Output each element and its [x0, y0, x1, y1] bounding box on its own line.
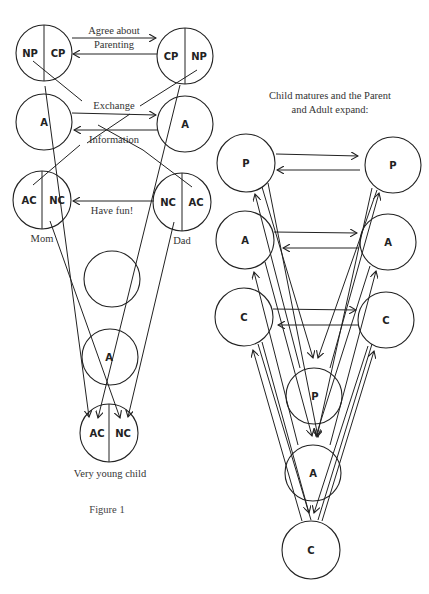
mom-np-label: NP: [22, 48, 38, 59]
dad-parent-ego-state: CP NP: [157, 28, 213, 84]
have-fun-label: Have fun!: [91, 205, 133, 216]
mom-adult-ego-state: A: [16, 94, 72, 150]
svg-text:P: P: [389, 160, 396, 171]
svg-text:A: A: [309, 468, 317, 479]
dad-child-ego-state: NC AC: [153, 173, 211, 231]
svg-text:C: C: [307, 545, 314, 556]
child-undeveloped-parent: [84, 251, 140, 307]
mom-to-child-line: [45, 86, 89, 417]
influence-line: [314, 346, 368, 513]
agree-about-label: Agree about: [88, 25, 140, 36]
dad-nc-label: NC: [160, 197, 176, 208]
dad-to-child-line: [128, 222, 174, 417]
exchange-label: Exchange: [93, 100, 135, 111]
information-label: Information: [89, 134, 140, 145]
parenting-label: Parenting: [94, 39, 135, 50]
child-nc-label: NC: [115, 428, 131, 439]
mom-parent-ego-state: NP CP: [16, 25, 72, 81]
left-parent-a: A: [216, 211, 274, 269]
mom-a-label: A: [40, 117, 48, 128]
mom-nc-label: NC: [49, 195, 65, 206]
cross-line: [140, 70, 197, 106]
right-panel-title-line1: Child matures and the Parent: [269, 90, 391, 101]
arrow-a-right: [274, 232, 357, 233]
influence-line: [316, 266, 370, 436]
left-parent-p: P: [217, 134, 275, 192]
figure-caption: Figure 1: [89, 504, 124, 515]
diagram-canvas: NP CP A AC NC Mom CP NP A NC AC Dad Agre…: [0, 0, 429, 594]
transactional-analysis-figure: NP CP A AC NC Mom CP NP A NC AC Dad Agre…: [0, 0, 429, 594]
mom-label: Mom: [31, 233, 54, 244]
dad-label: Dad: [173, 235, 191, 246]
child-adult-ego-state: A: [82, 329, 138, 385]
very-young-child-label: Very young child: [74, 468, 147, 479]
mom-child-ego-state: AC NC: [13, 171, 71, 229]
cross-line: [143, 150, 192, 187]
child-c: C: [282, 521, 340, 579]
cross-line: [33, 145, 80, 185]
influence-line: [262, 342, 309, 513]
right-parent-p: P: [365, 137, 421, 193]
influence-line: [317, 188, 372, 437]
child-ac-label: AC: [89, 428, 104, 439]
influence-line: [255, 194, 300, 368]
dad-ac-label: AC: [188, 197, 203, 208]
mom-cp-label: CP: [51, 48, 66, 59]
dad-cp-label: CP: [164, 51, 179, 62]
arrow-p-right: [276, 154, 358, 156]
svg-text:C: C: [382, 315, 389, 326]
svg-text:P: P: [311, 391, 318, 402]
svg-text:A: A: [384, 237, 392, 248]
mom-ac-label: AC: [21, 195, 36, 206]
influence-line: [268, 183, 318, 437]
dad-np-label: NP: [191, 51, 207, 62]
svg-text:P: P: [242, 158, 249, 169]
svg-text:C: C: [240, 312, 247, 323]
right-parent-c: C: [358, 292, 414, 348]
svg-text:A: A: [241, 235, 249, 246]
influence-line: [330, 193, 379, 368]
influence-line: [318, 190, 377, 358]
dad-a-label: A: [181, 119, 189, 130]
right-parent-a: A: [360, 214, 416, 270]
arrow-mom-to-dad-adult: [72, 113, 156, 115]
right-panel-title-line2: and Adult expand:: [292, 104, 369, 115]
left-parent-c: C: [215, 288, 273, 346]
